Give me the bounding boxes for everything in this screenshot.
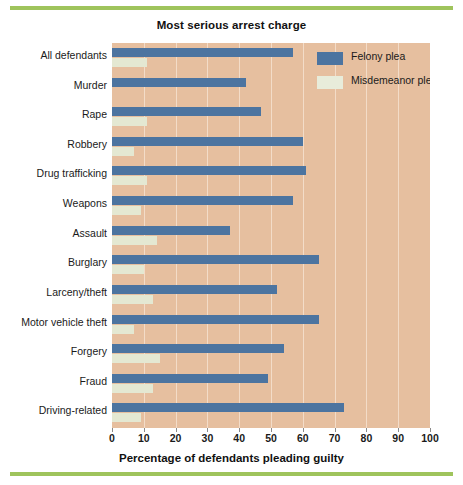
bar-felony bbox=[112, 255, 319, 264]
x-axis: 0102030405060708090100 bbox=[112, 428, 430, 448]
bar-misdemeanor bbox=[112, 354, 160, 363]
figure: Most serious arrest charge Felony plea M… bbox=[0, 0, 463, 485]
legend-item-misdemeanor: Misdemeanor plea bbox=[317, 73, 427, 97]
bar-misdemeanor bbox=[112, 384, 153, 393]
bar-misdemeanor bbox=[112, 265, 144, 274]
bar-felony bbox=[112, 285, 277, 294]
x-tick-label: 50 bbox=[265, 432, 277, 444]
x-tick-label: 10 bbox=[138, 432, 150, 444]
bar-row bbox=[112, 137, 430, 159]
bar-felony bbox=[112, 344, 284, 353]
bar-felony bbox=[112, 107, 261, 116]
bottom-accent-rule bbox=[10, 472, 453, 476]
legend-item-felony: Felony plea bbox=[317, 49, 427, 73]
chart-title: Most serious arrest charge bbox=[0, 19, 463, 31]
legend-label-misdemeanor: Misdemeanor plea bbox=[351, 74, 430, 86]
bar-misdemeanor bbox=[112, 295, 153, 304]
legend-swatch-misdemeanor-icon bbox=[317, 76, 343, 89]
bar-row bbox=[112, 255, 430, 277]
x-tick-label: 70 bbox=[329, 432, 341, 444]
category-label: Burglary bbox=[0, 256, 107, 268]
top-accent-rule bbox=[10, 6, 453, 10]
bar-misdemeanor bbox=[112, 176, 147, 185]
bar-felony bbox=[112, 166, 306, 175]
bar-row bbox=[112, 196, 430, 218]
x-tick-label: 80 bbox=[361, 432, 373, 444]
bar-row bbox=[112, 226, 430, 248]
category-label: All defendants bbox=[0, 49, 107, 61]
category-label: Driving-related bbox=[0, 404, 107, 416]
x-axis-title: Percentage of defendants pleading guilty bbox=[0, 452, 463, 464]
bar-row bbox=[112, 315, 430, 337]
legend: Felony plea Misdemeanor plea bbox=[317, 49, 427, 97]
x-tick-label: 100 bbox=[421, 432, 439, 444]
bar-misdemeanor bbox=[112, 206, 141, 215]
bar-felony bbox=[112, 226, 230, 235]
bar-misdemeanor bbox=[112, 117, 147, 126]
bar-misdemeanor bbox=[112, 58, 147, 67]
bar-felony bbox=[112, 196, 293, 205]
category-label: Drug trafficking bbox=[0, 167, 107, 179]
bar-misdemeanor bbox=[112, 147, 134, 156]
bar-row bbox=[112, 344, 430, 366]
category-label: Robbery bbox=[0, 138, 107, 150]
x-tick-label: 60 bbox=[297, 432, 309, 444]
bar-row bbox=[112, 374, 430, 396]
bar-misdemeanor bbox=[112, 236, 157, 245]
bar-row bbox=[112, 403, 430, 425]
plot-area: Felony plea Misdemeanor plea bbox=[112, 43, 430, 428]
category-label: Forgery bbox=[0, 345, 107, 357]
bar-felony bbox=[112, 315, 319, 324]
x-tick-label: 40 bbox=[233, 432, 245, 444]
x-tick-label: 30 bbox=[202, 432, 214, 444]
category-label: Motor vehicle theft bbox=[0, 316, 107, 328]
category-label: Assault bbox=[0, 227, 107, 239]
category-label: Murder bbox=[0, 79, 107, 91]
x-tick-label: 20 bbox=[170, 432, 182, 444]
bar-misdemeanor bbox=[112, 413, 141, 422]
bar-misdemeanor bbox=[112, 325, 134, 334]
x-tick-label: 0 bbox=[109, 432, 115, 444]
legend-swatch-felony-icon bbox=[317, 52, 343, 65]
category-label: Rape bbox=[0, 108, 107, 120]
bar-felony bbox=[112, 137, 303, 146]
bar-felony bbox=[112, 78, 246, 87]
legend-label-felony: Felony plea bbox=[351, 50, 405, 62]
bar-row bbox=[112, 285, 430, 307]
bar-felony bbox=[112, 374, 268, 383]
bar-row bbox=[112, 107, 430, 129]
bar-felony bbox=[112, 48, 293, 57]
category-label: Fraud bbox=[0, 375, 107, 387]
bar-felony bbox=[112, 403, 344, 412]
category-label: Larceny/theft bbox=[0, 286, 107, 298]
category-label: Weapons bbox=[0, 197, 107, 209]
x-tick-label: 90 bbox=[392, 432, 404, 444]
bar-row bbox=[112, 166, 430, 188]
category-axis-labels: All defendantsMurderRapeRobberyDrug traf… bbox=[0, 43, 107, 428]
